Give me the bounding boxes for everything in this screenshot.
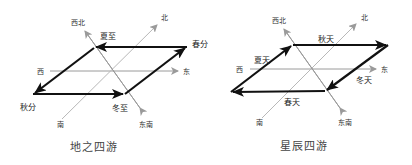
label-southeast: 东南 <box>338 118 352 127</box>
caption-stars-four-travels: 星辰四游 <box>280 140 328 153</box>
diagram-canvas: 西北 北 西 东 南 东南 夏至 春分 秋分 冬至 地之四游 西北 北 西 东 … <box>0 0 412 165</box>
label-spring: 春天 <box>284 97 300 107</box>
label-north: 北 <box>161 14 168 22</box>
label-east: 东 <box>381 65 388 74</box>
label-north: 北 <box>361 14 368 22</box>
label-autumn: 秋天 <box>318 34 334 44</box>
label-autumn-equinox: 秋分 <box>20 102 36 112</box>
label-west: 西 <box>236 66 243 74</box>
label-south: 南 <box>256 118 263 127</box>
arrow-spring <box>233 91 325 92</box>
label-winter: 冬天 <box>356 75 372 85</box>
label-winter-solstice: 冬至 <box>112 103 128 113</box>
caption-earth-four-travels: 地之四游 <box>70 140 118 154</box>
label-south: 南 <box>57 120 64 129</box>
diagram-stars-four-travels: 西北 北 西 东 南 东南 夏天 秋天 冬天 春天 星辰四游 <box>231 14 388 153</box>
label-northwest: 西北 <box>71 19 85 27</box>
label-west: 西 <box>37 68 44 76</box>
label-northwest: 西北 <box>272 17 286 25</box>
label-southeast: 东南 <box>139 120 153 129</box>
label-spring-equinox: 春分 <box>192 39 208 49</box>
label-summer-solstice: 夏至 <box>100 32 116 41</box>
south-north-axis <box>262 24 356 118</box>
label-summer: 夏天 <box>254 56 270 65</box>
diagram-earth-four-travels: 西北 北 西 东 南 东南 夏至 春分 秋分 冬至 地之四游 <box>20 14 208 154</box>
northwest-axis <box>85 31 140 108</box>
label-east: 东 <box>183 67 190 76</box>
